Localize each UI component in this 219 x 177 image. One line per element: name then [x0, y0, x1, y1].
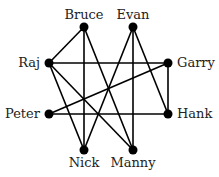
node-label-bruce: Bruce: [64, 7, 103, 22]
graph-edges: [49, 27, 168, 150]
node-garry: [164, 59, 173, 68]
node-label-manny: Manny: [110, 155, 156, 170]
edge-garry-peter: [49, 63, 168, 114]
node-bruce: [80, 23, 89, 32]
node-evan: [129, 23, 138, 32]
node-label-peter: Peter: [5, 106, 41, 121]
node-label-evan: Evan: [117, 7, 151, 22]
node-manny: [129, 146, 138, 155]
node-hank: [164, 110, 173, 119]
node-label-nick: Nick: [69, 155, 100, 170]
node-label-raj: Raj: [18, 55, 40, 70]
node-peter: [45, 110, 54, 119]
edge-bruce-raj: [49, 27, 84, 63]
node-nick: [80, 146, 89, 155]
node-raj: [45, 59, 54, 68]
graph-diagram: BruceEvanRajGarryPeterHankNickManny: [0, 0, 219, 177]
edge-raj-manny: [49, 63, 133, 150]
node-label-garry: Garry: [177, 55, 216, 70]
node-label-hank: Hank: [177, 106, 212, 121]
